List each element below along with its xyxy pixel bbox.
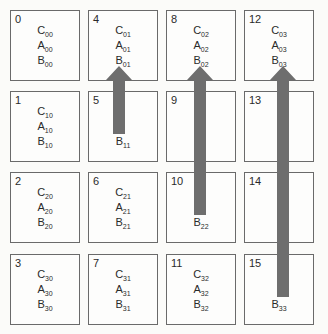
up-arrow-icon <box>270 66 296 297</box>
shift-arrows <box>0 0 328 334</box>
up-arrow-icon <box>187 66 213 215</box>
up-arrow-icon <box>106 66 132 134</box>
